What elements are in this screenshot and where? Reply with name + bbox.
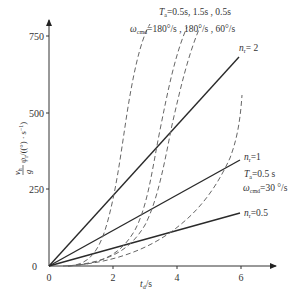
svg-text:g: g [23,170,33,174]
solid-lines [49,57,240,266]
line-n-1 [49,160,240,266]
annotations: Ta=0.5s, 1.5s , 0.5s ωcmd=180°/s , 180°/… [130,7,288,219]
annotation-n-2: nr= 2 [239,43,258,54]
annotation-ta-30: Ta=0.5 s [244,169,276,180]
line-n-0.5 [49,213,240,266]
y-tick-label-750: 750 [29,31,44,42]
x-axis-label: td/s [140,279,152,290]
annotation-n-1: nr=1 [244,152,261,163]
dashed-curves [63,24,242,266]
curve-ta0.5-w30 [63,95,242,266]
y-tick-label-500: 500 [29,108,44,119]
chart-canvas: 750 500 250 0 0 2 4 6 td/s vh g ψr/((°) … [0,0,301,293]
svg-text:vh: vh [12,168,23,175]
x-tick-label-2: 2 [111,272,116,283]
x-tick-label-6: 6 [239,272,244,283]
svg-text:ψr/((°) · s−1): ψr/((°) · s−1) [18,122,29,163]
y-axis-label: vh g ψr/((°) · s−1) [12,122,33,175]
annotation-omega-30: ωcmd=30 °/s [243,183,288,194]
annotation-omega-top: ωcmd=180°/s , 180°/s , 60°/s [130,24,235,35]
x-tick-label-0: 0 [47,272,52,283]
curve-ta0.5-w180 [68,24,150,266]
line-n-2 [49,57,239,266]
y-tick-label-0: 0 [32,261,37,272]
x-tick-label-4: 4 [175,272,180,283]
annotation-ta-top: Ta=0.5s, 1.5s , 0.5s [159,7,231,18]
y-tick-label-250: 250 [29,184,44,195]
curve-ta1.5-w180 [68,27,187,266]
annotation-n-0.5: nr=0.5 [244,208,268,219]
